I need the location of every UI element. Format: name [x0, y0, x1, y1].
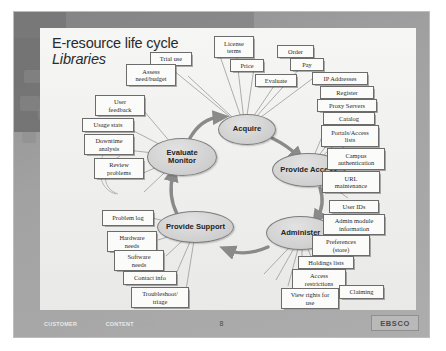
box-review-problems-line2: problems: [107, 169, 131, 176]
box-contact-info-label: Contact info: [134, 274, 166, 281]
box-campus-authentication[interactable]: Campus authentication: [327, 148, 385, 170]
box-downtime-analysis-line1: Downtime: [96, 137, 123, 144]
box-holdings-lists[interactable]: Holdings lists: [298, 256, 354, 269]
box-price-label: Price: [240, 62, 253, 69]
box-preferences-store-line2: (store): [333, 246, 350, 253]
box-campus-authentication-line1: Campus: [346, 152, 367, 159]
box-preferences-store[interactable]: Preferences (store): [312, 235, 370, 256]
box-pay-label: Pay: [302, 61, 312, 68]
box-hardware-needs[interactable]: Hardware needs: [107, 231, 157, 252]
slide-frame: E-resource life cycle Libraries: [14, 12, 429, 337]
box-usage-stats[interactable]: Usage stats: [82, 118, 134, 132]
box-register-label: Register: [336, 89, 357, 96]
box-url-maintenance-line2: maintenance: [335, 182, 367, 189]
box-trial-use-label: Trial use: [160, 55, 182, 62]
box-admin-module-information[interactable]: Admin module information: [323, 214, 385, 235]
box-claiming-label: Claiming: [350, 288, 374, 295]
box-license-terms-line2: terms: [227, 47, 241, 54]
box-claiming[interactable]: Claiming: [339, 285, 384, 299]
node-acquire-label: Acquire: [233, 125, 261, 134]
node-provide-support[interactable]: Provide Support: [157, 211, 234, 243]
box-downtime-analysis[interactable]: Downtime analysis: [84, 134, 134, 155]
box-ip-addresses[interactable]: IP Addresses: [312, 72, 368, 85]
box-admin-module-information-line2: information: [339, 225, 369, 232]
box-proxy-servers[interactable]: Proxy Servers: [317, 99, 377, 112]
box-evaluate[interactable]: Evaluate: [255, 74, 297, 87]
box-preferences-store-line1: Preferences: [326, 238, 356, 245]
box-portals-access-lists-line1: Portals/Access: [331, 129, 369, 136]
box-license-terms-line1: License: [224, 40, 244, 47]
node-provide-support-label: Provide Support: [166, 223, 225, 232]
box-user-feedback-line2: feedback: [108, 106, 131, 113]
box-user-feedback[interactable]: User feedback: [95, 95, 145, 116]
box-catalog-label: Catalog: [339, 115, 359, 122]
box-problem-log[interactable]: Problem log: [102, 210, 154, 226]
box-downtime-analysis-line2: analysis: [99, 145, 120, 152]
box-view-rights-for-use[interactable]: View rights for use: [281, 288, 339, 309]
page-number: 8: [14, 320, 429, 327]
box-assess-need-budget-line1: Assess: [142, 68, 159, 75]
box-user-feedback-line1: User: [114, 98, 126, 105]
box-campus-authentication-line2: authentication: [338, 159, 374, 166]
node-acquire[interactable]: Acquire: [218, 114, 276, 145]
box-portals-access-lists-line2: lists: [345, 136, 355, 143]
box-evaluate-label: Evaluate: [265, 77, 287, 84]
box-access-restrictions-line2: restrictions: [305, 280, 333, 287]
box-assess-need-budget-line2: need/budget: [135, 75, 166, 82]
box-url-maintenance[interactable]: URL maintenance: [322, 171, 380, 193]
box-software-needs-line1: Software: [127, 253, 150, 260]
box-usage-stats-label: Usage stats: [94, 121, 123, 128]
box-contact-info[interactable]: Contact info: [123, 271, 177, 285]
node-evaluate-monitor-label-line2: Monitor: [168, 157, 196, 166]
box-hardware-needs-line2: needs: [125, 242, 140, 249]
box-ip-addresses-label: IP Addresses: [324, 75, 357, 82]
box-holdings-lists-label: Holdings lists: [308, 259, 343, 266]
decorative-square-3: [20, 96, 40, 111]
box-access-restrictions[interactable]: Access restrictions: [292, 269, 346, 290]
decorative-square-5: [22, 132, 36, 143]
slide-root: E-resource life cycle Libraries: [0, 0, 446, 351]
box-url-maintenance-line1: URL: [345, 175, 358, 182]
box-view-rights-for-use-line2: use: [306, 299, 315, 306]
box-license-terms[interactable]: License terms: [214, 36, 254, 58]
box-troubleshoot-triage-line1: Troubleshoot/: [142, 290, 178, 297]
box-register[interactable]: Register: [320, 86, 374, 99]
box-pay[interactable]: Pay: [290, 58, 324, 71]
box-assess-need-budget[interactable]: Assess need/budget: [126, 64, 176, 86]
box-troubleshoot-triage[interactable]: Troubleshoot/ triage: [131, 287, 189, 308]
box-software-needs-line2: needs: [132, 261, 147, 268]
box-software-needs[interactable]: Software needs: [114, 250, 164, 271]
node-evaluate-monitor[interactable]: Evaluate Monitor: [147, 138, 217, 176]
box-catalog[interactable]: Catalog: [323, 112, 375, 125]
slide-content-page: E-resource life cycle Libraries: [40, 28, 416, 310]
box-user-ids-label: User IDs: [343, 203, 366, 210]
box-price[interactable]: Price: [230, 59, 264, 72]
box-review-problems[interactable]: Review problems: [94, 158, 144, 179]
box-portals-access-lists[interactable]: Portals/Access lists: [321, 125, 379, 147]
box-order[interactable]: Order: [277, 45, 314, 58]
box-troubleshoot-triage-line2: triage: [153, 298, 168, 305]
box-hardware-needs-line1: Hardware: [119, 234, 144, 241]
box-admin-module-information-line1: Admin module: [335, 217, 374, 224]
box-proxy-servers-label: Proxy Servers: [329, 102, 365, 109]
decorative-square-1: [24, 70, 41, 83]
box-review-problems-line1: Review: [109, 161, 129, 168]
ebsco-logo: EBSCO: [371, 315, 419, 331]
box-problem-log-label: Problem log: [112, 214, 143, 221]
box-order-label: Order: [288, 48, 303, 55]
box-user-ids[interactable]: User IDs: [329, 200, 379, 213]
box-access-restrictions-line1: Access: [310, 272, 328, 279]
box-view-rights-for-use-line1: View rights for: [291, 291, 330, 298]
